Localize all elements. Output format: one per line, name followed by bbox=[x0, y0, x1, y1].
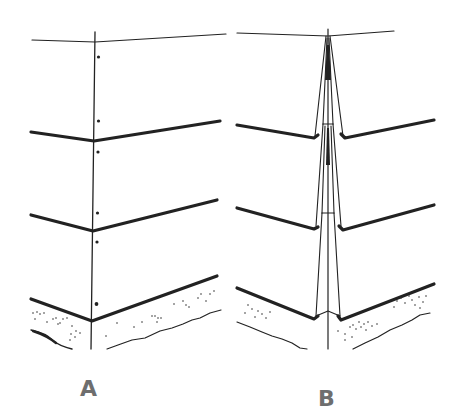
panel-b-course-3-left bbox=[237, 208, 318, 229]
panel-b-ground-left bbox=[237, 322, 307, 349]
panel-b-corner-board-upper bbox=[315, 36, 343, 136]
panel-b-label: B bbox=[318, 388, 335, 410]
panel-b-course-3-right bbox=[339, 205, 434, 230]
panel-a-course-1 bbox=[32, 34, 226, 42]
panel-a-corner-line bbox=[91, 32, 95, 349]
panel-a-ground-right bbox=[107, 310, 221, 349]
panel-b-course-2-right bbox=[341, 120, 434, 138]
panel-a-drawing bbox=[31, 32, 226, 349]
panel-b-drawing bbox=[237, 29, 434, 349]
panel-a-course-2 bbox=[31, 121, 220, 141]
panel-a-label: A bbox=[80, 378, 97, 400]
panel-b-course-2-left bbox=[237, 125, 318, 138]
panel-a-course-3 bbox=[31, 200, 217, 231]
panel-a-ground-stipple bbox=[32, 290, 215, 341]
panel-b-course-4-left bbox=[237, 288, 318, 319]
siding-corner-diagram bbox=[0, 0, 456, 412]
panel-a-ground-left-fill bbox=[33, 331, 56, 343]
panel-b-course-1 bbox=[237, 31, 394, 36]
panel-a-course-4 bbox=[31, 276, 217, 321]
panel-a-nail-dots bbox=[95, 55, 101, 306]
panel-b-ground-right bbox=[353, 313, 430, 349]
